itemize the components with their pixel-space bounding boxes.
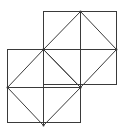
vertex-dot bbox=[116, 49, 118, 51]
vertex-dot bbox=[7, 87, 9, 89]
vertex-dot bbox=[80, 11, 82, 13]
diagram-canvas bbox=[0, 0, 119, 130]
vertex-dot bbox=[43, 125, 45, 127]
geometric-diagram bbox=[0, 0, 119, 130]
vertex-dot bbox=[80, 87, 82, 89]
vertex-dot bbox=[43, 49, 45, 51]
